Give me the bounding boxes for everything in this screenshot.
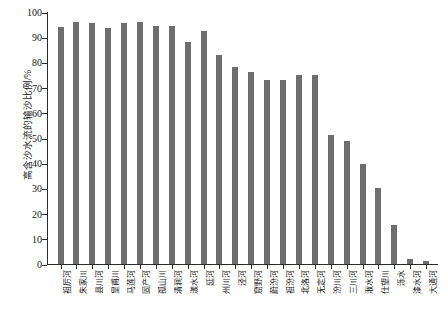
bar bbox=[391, 225, 397, 264]
bar bbox=[280, 80, 286, 264]
plot-area bbox=[47, 12, 438, 265]
x-axis-tick bbox=[378, 265, 379, 269]
y-axis-tick bbox=[42, 164, 47, 165]
bar bbox=[264, 80, 270, 264]
y-axis-tick-label: 100 bbox=[8, 8, 42, 18]
y-axis-tick-label: 0 bbox=[8, 260, 42, 270]
bar bbox=[312, 75, 318, 264]
y-axis-tick-label: 80 bbox=[8, 58, 42, 68]
bar bbox=[73, 22, 79, 264]
y-axis-tick-label: 50 bbox=[8, 134, 42, 144]
bar bbox=[216, 55, 222, 264]
x-axis-tick bbox=[108, 265, 109, 269]
x-axis-tick bbox=[283, 265, 284, 269]
x-axis-tick-label: 仕望川 bbox=[382, 270, 390, 294]
bar-chart: 高含沙水流的输沙比例/% 1009080706050403020100 祖厉河朱… bbox=[0, 0, 448, 319]
x-axis-tick bbox=[92, 265, 93, 269]
x-axis-tick-label: 马莲河 bbox=[128, 270, 136, 294]
x-axis-tick bbox=[426, 265, 427, 269]
x-axis-tick bbox=[331, 265, 332, 269]
bar bbox=[153, 26, 159, 264]
x-axis-tick bbox=[124, 265, 125, 269]
y-axis-tick-label: 30 bbox=[8, 184, 42, 194]
x-axis-tick-label: 皇甫川 bbox=[112, 270, 120, 294]
x-axis-tick-label: 漆水河 bbox=[414, 270, 422, 294]
bar bbox=[105, 28, 111, 264]
y-axis-tick bbox=[42, 38, 47, 39]
x-axis-tick bbox=[76, 265, 77, 269]
x-axis-tick-label: 县川河 bbox=[96, 270, 104, 294]
x-axis-tick-label: 三川河 bbox=[350, 270, 358, 294]
bar bbox=[248, 72, 254, 264]
y-axis-tick bbox=[42, 113, 47, 114]
y-axis-tick bbox=[42, 88, 47, 89]
bar bbox=[232, 67, 238, 264]
bar bbox=[89, 23, 95, 264]
x-axis-tick-label: 汾川河 bbox=[334, 270, 342, 294]
y-axis-tick bbox=[42, 63, 47, 64]
x-axis-tick bbox=[299, 265, 300, 269]
bar bbox=[360, 164, 366, 264]
x-axis-tick bbox=[235, 265, 236, 269]
x-axis-tick bbox=[140, 265, 141, 269]
y-axis-tick-label: 20 bbox=[8, 210, 42, 220]
bar bbox=[201, 31, 207, 264]
x-axis-tick-label: 泺水 bbox=[398, 270, 406, 286]
y-axis-tick-label: 60 bbox=[8, 109, 42, 119]
x-axis-tick-label: 泾河 bbox=[239, 270, 247, 286]
x-axis-tick bbox=[172, 265, 173, 269]
x-axis-tick bbox=[347, 265, 348, 269]
x-axis-tick-label: 祖汾河 bbox=[287, 270, 295, 294]
y-axis-tick-label: 10 bbox=[8, 235, 42, 245]
x-axis-tick-label: 朱家川 bbox=[80, 270, 88, 294]
x-axis-tick bbox=[61, 265, 62, 269]
y-axis-tick bbox=[42, 265, 47, 266]
x-axis-tick-label: 无定河 bbox=[318, 270, 326, 294]
bar bbox=[58, 27, 64, 264]
x-axis-tick bbox=[219, 265, 220, 269]
y-axis-line bbox=[47, 12, 48, 265]
bar bbox=[328, 135, 334, 264]
x-axis-tick bbox=[188, 265, 189, 269]
y-axis-tick-label: 40 bbox=[8, 159, 42, 169]
y-axis-tick bbox=[42, 239, 47, 240]
x-axis-tick bbox=[156, 265, 157, 269]
x-axis-tick-label: 北洛河 bbox=[302, 270, 310, 294]
y-axis-tick bbox=[42, 189, 47, 190]
y-axis-tick-label: 70 bbox=[8, 84, 42, 94]
x-axis-tick bbox=[363, 265, 364, 269]
y-axis-tick bbox=[42, 139, 47, 140]
bar bbox=[375, 188, 381, 264]
x-axis-tick bbox=[251, 265, 252, 269]
y-axis-tick bbox=[42, 214, 47, 215]
x-axis-tick bbox=[315, 265, 316, 269]
bar bbox=[296, 75, 302, 264]
x-axis-tick bbox=[267, 265, 268, 269]
bar bbox=[185, 42, 191, 264]
bar bbox=[407, 259, 413, 264]
bar bbox=[137, 22, 143, 264]
x-axis-tick-label: 大通河 bbox=[430, 270, 438, 294]
x-axis-tick-label: 孤山川 bbox=[159, 270, 167, 294]
bar bbox=[344, 141, 350, 264]
x-axis-tick-label: 固产河 bbox=[143, 270, 151, 294]
x-axis-tick bbox=[394, 265, 395, 269]
x-axis-tick-label: 祖厉河 bbox=[64, 270, 72, 294]
y-axis-tick-label: 90 bbox=[8, 33, 42, 43]
x-axis-tick-label: 延河 bbox=[207, 270, 215, 286]
x-axis-tick-label: 窟野河 bbox=[255, 270, 263, 294]
y-axis-tick bbox=[42, 13, 47, 14]
x-axis-tick bbox=[204, 265, 205, 269]
x-axis-tick-label: 清涧河 bbox=[175, 270, 183, 294]
bar bbox=[423, 261, 429, 264]
x-axis-tick-label: 州川河 bbox=[223, 270, 231, 294]
bar bbox=[121, 23, 127, 264]
bar bbox=[169, 26, 175, 264]
x-axis-tick-label: 湫水河 bbox=[366, 270, 374, 294]
x-axis-tick-label: 蔚汾河 bbox=[271, 270, 279, 294]
x-axis-tick bbox=[410, 265, 411, 269]
x-axis-tick-label: 漾水河 bbox=[191, 270, 199, 294]
